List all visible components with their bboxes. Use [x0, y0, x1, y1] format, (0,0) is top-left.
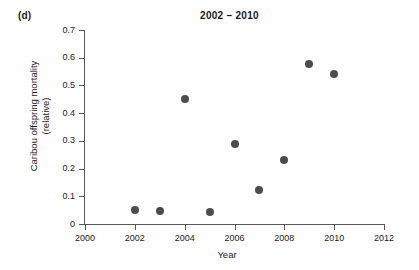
data-point: [131, 206, 139, 214]
x-tick: [284, 225, 285, 230]
x-tick: [135, 225, 136, 230]
y-tick-label-text: 0: [44, 220, 75, 229]
y-axis-title-line-2: (relative): [40, 36, 52, 196]
y-tick: [79, 85, 84, 86]
x-tick-label-text: 2002: [113, 233, 157, 244]
y-tick-label-text: 0.7: [44, 26, 75, 35]
x-tick-label-text: 2010: [312, 233, 356, 244]
x-tick-label: 2000: [63, 233, 107, 244]
x-tick-label-text: 2000: [63, 233, 107, 244]
x-tick: [384, 225, 385, 230]
y-tick: [79, 196, 84, 197]
data-point: [181, 95, 189, 103]
x-tick-label: 2002: [113, 233, 157, 244]
y-tick-label: 0: [44, 220, 75, 229]
x-tick-label: 2004: [163, 233, 207, 244]
chart-title: 2002 – 2010: [0, 10, 419, 21]
x-tick-label: 2006: [213, 233, 257, 244]
y-axis-title: Caribou offspring mortality (relative): [28, 36, 54, 196]
y-tick: [79, 141, 84, 142]
y-tick: [79, 113, 84, 114]
x-tick: [185, 225, 186, 230]
y-tick: [79, 169, 84, 170]
x-tick-label-text: 2006: [213, 233, 257, 244]
x-tick: [235, 225, 236, 230]
x-axis-title: Year: [145, 249, 309, 260]
y-tick: [79, 58, 84, 59]
data-point: [231, 140, 239, 148]
x-tick: [85, 225, 86, 230]
y-tick: [79, 30, 84, 31]
y-tick: [79, 224, 84, 225]
y-tick-label: 0.7: [44, 26, 75, 35]
data-point: [206, 208, 214, 216]
x-tick-label-text: 2008: [262, 233, 306, 244]
x-tick: [334, 225, 335, 230]
data-point: [156, 207, 164, 215]
plot-area: [85, 30, 384, 224]
y-axis-title-line-1: Caribou offspring mortality: [28, 36, 40, 196]
x-tick-label-text: 2012: [362, 233, 406, 244]
x-tick-label: 2012: [362, 233, 406, 244]
figure-panel-d: (d) 2002 – 2010 00.10.20.30.40.50.60.7 2…: [0, 0, 419, 270]
x-tick-label: 2010: [312, 233, 356, 244]
x-tick-label: 2008: [262, 233, 306, 244]
x-tick-label-text: 2004: [163, 233, 207, 244]
